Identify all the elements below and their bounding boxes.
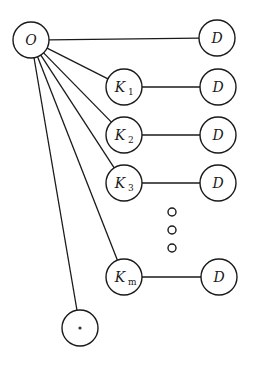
node-d2: D xyxy=(200,117,236,153)
node-d1: D xyxy=(200,69,236,105)
ellipsis-dot-3 xyxy=(168,244,176,252)
node-d0: D xyxy=(199,20,235,56)
node-label: O xyxy=(25,32,37,48)
node-label: D xyxy=(210,30,222,46)
node-label: K xyxy=(114,269,127,285)
edge-o-d0 xyxy=(49,38,199,40)
node-label: K xyxy=(114,127,127,143)
node-label: D xyxy=(211,127,223,143)
node-label: D xyxy=(211,79,223,95)
node-label: D xyxy=(212,269,224,285)
edge-o-k3 xyxy=(41,55,114,168)
star-mark-icon xyxy=(78,326,81,329)
node-label: D xyxy=(211,175,223,191)
ellipsis-dot-2 xyxy=(168,226,176,234)
node-k3: K3 xyxy=(106,165,142,201)
node-dm: D xyxy=(201,259,237,295)
ellipsis-dot-1 xyxy=(168,208,176,216)
edge-o-k1 xyxy=(47,48,108,79)
nodes: ODK1DK2DK3DKmD xyxy=(13,20,237,346)
node-k2: K2 xyxy=(106,117,142,153)
node-o: O xyxy=(13,22,49,58)
node-subscript: m xyxy=(128,277,137,287)
node-k1: K1 xyxy=(106,69,142,105)
node-km: Km xyxy=(106,259,142,295)
node-subscript: 1 xyxy=(128,87,134,97)
node-label: K xyxy=(114,79,127,95)
edge-o-s xyxy=(34,58,77,311)
graph-diagram: ODK1DK2DK3DKmD xyxy=(0,0,253,367)
node-label: K xyxy=(114,175,127,191)
node-subscript: 3 xyxy=(128,183,134,193)
node-s xyxy=(62,310,98,346)
vertical-ellipsis xyxy=(168,208,176,252)
node-d3: D xyxy=(200,165,236,201)
node-subscript: 2 xyxy=(128,135,134,145)
